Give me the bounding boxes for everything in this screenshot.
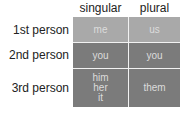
cell-2nd-singular: you bbox=[73, 43, 128, 68]
cell-text: us bbox=[149, 25, 160, 35]
cell-text: you bbox=[146, 51, 162, 61]
pronoun-grid: me us you you him her it them bbox=[73, 17, 180, 107]
pronoun-table-diagram: singular plural 1st person 2nd person 3r… bbox=[0, 0, 193, 113]
cell-1st-plural: us bbox=[129, 17, 180, 42]
row-label-2nd-person: 2nd person bbox=[0, 48, 69, 62]
row-label-1st-person: 1st person bbox=[0, 23, 69, 37]
cell-1st-singular: me bbox=[73, 17, 128, 42]
cell-text: it bbox=[98, 93, 103, 103]
row-label-3rd-person: 3rd person bbox=[0, 81, 69, 95]
column-header-plural: plural bbox=[129, 1, 180, 15]
cell-3rd-singular: him her it bbox=[73, 69, 128, 107]
column-header-singular: singular bbox=[73, 1, 128, 15]
cell-text: you bbox=[92, 51, 108, 61]
cell-2nd-plural: you bbox=[129, 43, 180, 68]
cell-text: them bbox=[143, 83, 165, 93]
cell-3rd-plural: them bbox=[129, 69, 180, 107]
cell-text: me bbox=[94, 25, 108, 35]
